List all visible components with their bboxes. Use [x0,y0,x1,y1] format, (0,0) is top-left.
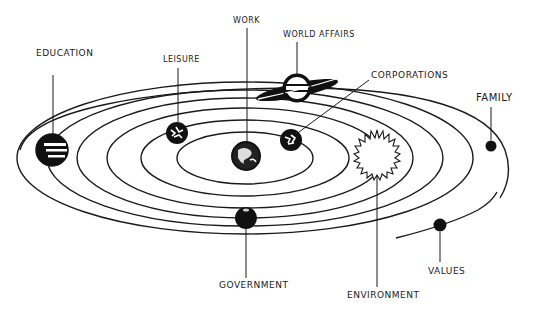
label-work: WORK [233,16,260,26]
label-world-affairs: WORLD AFFAIRS [283,30,355,40]
planet-government [235,207,257,229]
label-government: GOVERNMENT [219,280,288,290]
orbit-family-arc [20,88,509,198]
planet-values [434,219,447,232]
leader-lines [53,28,491,287]
planet-work [232,142,260,170]
planet-environment [354,130,400,180]
label-environment: ENVIRONMENT [347,290,419,300]
solar-system-diagram: EDUCATION LEISURE WORK WORLD AFFAIRS COR… [0,0,535,312]
label-values: VALUES [428,266,465,276]
planet-family [486,141,497,152]
planet-education [36,134,68,166]
planet-leisure [166,122,188,144]
orbits [17,82,509,238]
label-leisure: LEISURE [163,55,200,65]
label-family: FAMILY [476,93,513,103]
label-education: EDUCATION [36,48,93,58]
label-corporations: CORPORATIONS [371,70,448,80]
planet-corporations [280,129,302,151]
orbit-values-arc [396,192,497,238]
